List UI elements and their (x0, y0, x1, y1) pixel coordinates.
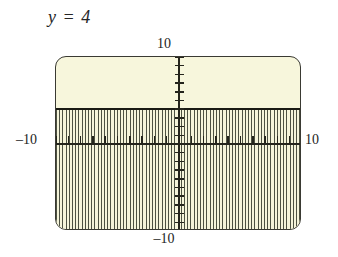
y-axis-tick (175, 108, 184, 110)
x-axis-tick (191, 136, 193, 145)
x-axis-tick (277, 136, 279, 145)
x-axis-tick (129, 136, 131, 145)
x-axis-tick (166, 136, 168, 145)
y-axis-tick (175, 126, 184, 128)
x-axis-tick (154, 136, 156, 145)
y-axis-min-label: –10 (154, 231, 175, 247)
x-axis-tick (215, 136, 217, 145)
equation-caption: y = 4 (48, 7, 91, 28)
x-axis-tick (264, 136, 266, 145)
x-axis-tick (92, 136, 94, 145)
y-axis-tick (175, 161, 184, 163)
y-axis-tick (175, 56, 184, 58)
y-axis-max-label: 10 (157, 36, 171, 52)
x-axis-max-label: 10 (305, 132, 319, 148)
y-axis-tick (175, 178, 184, 180)
y-axis-tick (175, 65, 184, 67)
x-axis-tick (117, 136, 119, 145)
y-axis-tick (175, 135, 184, 137)
y-axis-tick (175, 213, 184, 215)
y-axis-tick (175, 91, 184, 93)
x-axis-tick (80, 136, 82, 145)
y-axis-tick (175, 169, 184, 171)
x-axis-tick (55, 136, 57, 145)
y-axis-tick (175, 82, 184, 84)
y-axis-tick (175, 100, 184, 102)
y-axis-tick (175, 204, 184, 206)
graphing-calculator-screen (55, 56, 301, 230)
x-axis-tick (203, 136, 205, 145)
x-axis-tick (252, 136, 254, 145)
x-axis-tick (68, 136, 70, 145)
plot-surface (56, 57, 300, 229)
y-axis-tick (175, 222, 184, 224)
x-axis-tick (289, 136, 291, 145)
x-axis-tick (227, 136, 229, 145)
x-axis-min-label: –10 (16, 132, 37, 148)
x-axis-tick (240, 136, 242, 145)
y-axis-tick (175, 74, 184, 76)
y-axis-tick (175, 195, 184, 197)
y-axis-tick (175, 152, 184, 154)
x-axis-tick (104, 136, 106, 145)
y-axis-tick (175, 187, 184, 189)
x-axis-tick (141, 136, 143, 145)
y-axis-tick (175, 117, 184, 119)
